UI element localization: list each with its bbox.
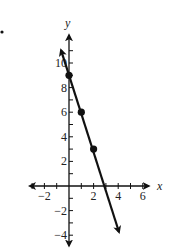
y-tick-label: −4 — [54, 228, 67, 242]
x-tick-label: −2 — [38, 189, 51, 203]
x-tick-label: 4 — [115, 189, 121, 203]
bullet-marker — [0, 30, 3, 33]
line-graph: xy−2246108642−2−4 — [0, 0, 169, 251]
axis-ticks — [32, 51, 143, 236]
x-axis-label: x — [156, 179, 163, 193]
y-tick-label: 6 — [61, 105, 67, 119]
tick-labels: xy−2246108642−2−4 — [38, 16, 163, 242]
y-tick-label: −2 — [54, 204, 67, 218]
y-axis-label: y — [64, 16, 71, 30]
data-point — [65, 72, 72, 79]
y-tick-label: 4 — [61, 130, 67, 144]
x-tick-label: 6 — [140, 189, 146, 203]
data-point — [78, 109, 85, 116]
x-tick-label: 2 — [91, 189, 97, 203]
data-series — [61, 50, 119, 232]
y-tick-label: 2 — [61, 154, 67, 168]
y-tick-label: 8 — [61, 81, 67, 95]
data-point — [90, 146, 97, 153]
